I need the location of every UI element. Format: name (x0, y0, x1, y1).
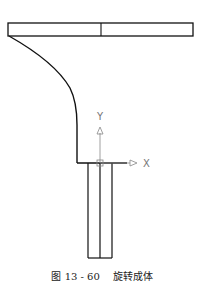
caption-title: 旋转成体 (113, 271, 153, 282)
x-axis-arrow-icon (130, 160, 137, 166)
profile-curve (9, 36, 77, 163)
caption-number: 图 13 - 60 (51, 271, 99, 282)
y-axis-arrow-icon (97, 127, 103, 134)
revolved-profile-drawing: Y X (0, 0, 204, 297)
figure-caption: 图 13 - 60 旋转成体 (0, 268, 204, 283)
y-axis-label: Y (96, 111, 104, 122)
x-axis-label: X (143, 158, 150, 169)
